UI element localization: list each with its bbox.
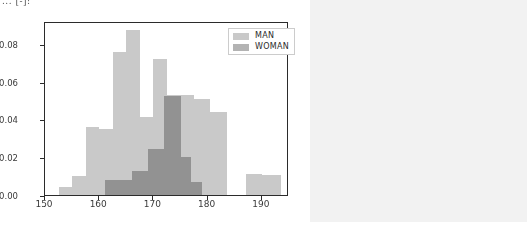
legend-item-woman: WOMAN [233, 43, 289, 51]
y-tick-label: 0.00 [0, 191, 18, 201]
x-tick-mark [152, 196, 153, 200]
histogram-bar [181, 157, 192, 195]
x-tick-mark [98, 196, 99, 200]
histogram-bar [86, 127, 100, 195]
histogram-bar [262, 175, 281, 195]
histogram-bar [191, 182, 202, 195]
y-tick-mark [40, 83, 44, 84]
histogram-bar [148, 149, 164, 195]
matplotlib-figure: 0.000.020.040.060.08 150160170180190 MAN… [0, 6, 310, 222]
x-tick-mark [207, 196, 208, 200]
y-tick-mark [40, 158, 44, 159]
legend-label-woman: WOMAN [255, 43, 289, 51]
y-tick-label: 0.02 [0, 153, 18, 163]
y-tick-label: 0.06 [0, 78, 18, 88]
x-tick-label: 190 [252, 199, 269, 209]
x-tick-mark [261, 196, 262, 200]
y-tick-mark [40, 120, 44, 121]
screenshot-root: ... [-]: 0.000.020.040.060.08 1501601701… [0, 0, 527, 230]
histogram-bar [194, 99, 210, 195]
legend-swatch-man [233, 33, 249, 40]
histogram-bar [126, 30, 140, 195]
x-tick-label: 160 [90, 199, 107, 209]
histogram-bar [132, 171, 148, 195]
histogram-bar [164, 96, 180, 195]
histogram-bar [246, 174, 262, 195]
histogram-bar [210, 112, 226, 195]
legend-label-man: MAN [255, 32, 274, 40]
y-tick-mark [40, 45, 44, 46]
x-tick-label: 180 [198, 199, 215, 209]
y-tick-label: 0.08 [0, 40, 18, 50]
legend-swatch-woman [233, 44, 249, 51]
histogram-bar [59, 187, 73, 195]
chart-legend: MAN WOMAN [228, 28, 295, 55]
x-tick-label: 150 [35, 199, 52, 209]
histogram-bar [72, 176, 86, 195]
page-background-strip [310, 222, 527, 230]
x-tick-mark [44, 196, 45, 200]
histogram-bar [113, 52, 127, 195]
histogram-bar [105, 180, 132, 195]
legend-item-man: MAN [233, 32, 289, 40]
y-tick-label: 0.04 [0, 115, 18, 125]
page-background-panel [310, 0, 527, 222]
x-tick-label: 170 [144, 199, 161, 209]
